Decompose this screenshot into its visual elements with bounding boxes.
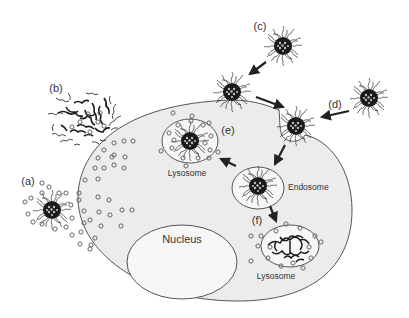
arrow-c-to-membrane xyxy=(250,62,266,74)
micelle-a xyxy=(33,190,71,230)
label-a: (a) xyxy=(21,175,34,187)
endosome xyxy=(232,166,284,209)
diagram-canvas: Nucleus Lysosome (e) Endosome xyxy=(0,0,409,318)
label-c: (c) xyxy=(254,20,267,32)
label-b: (b) xyxy=(49,82,62,94)
lysosome-f-label: Lysosome xyxy=(257,271,296,281)
endosome-label: Endosome xyxy=(288,182,329,192)
label-e: (e) xyxy=(221,124,234,136)
micelle-c xyxy=(264,26,302,66)
arrow-d-to-pit xyxy=(322,111,349,117)
nucleus-label: Nucleus xyxy=(162,233,202,245)
lysosome-e-label: Lysosome xyxy=(168,168,207,178)
label-d: (d) xyxy=(328,98,341,110)
label-f: (f) xyxy=(252,214,262,226)
micelle-d xyxy=(350,78,388,118)
